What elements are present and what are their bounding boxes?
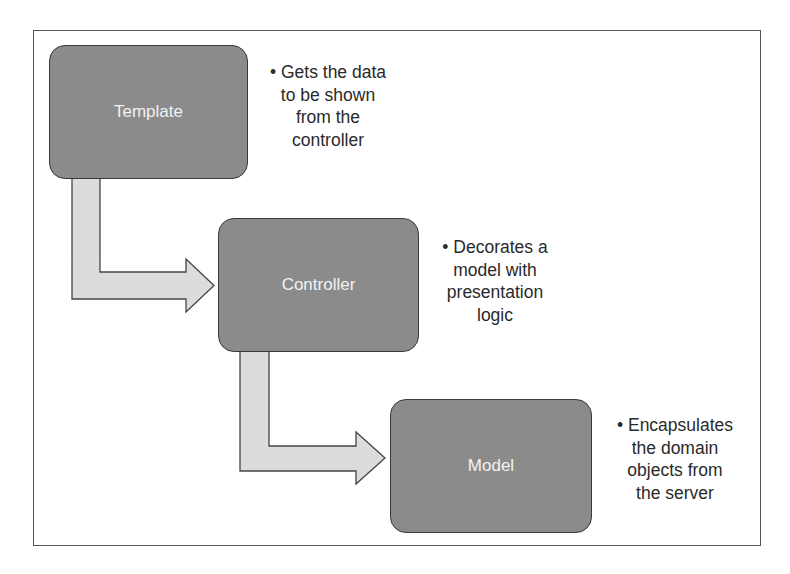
note-line: the server <box>596 482 754 505</box>
note-line: • Gets the data <box>254 61 402 84</box>
model-note: • Encapsulates the domain objects from t… <box>596 414 754 504</box>
template-note: • Gets the data to be shown from the con… <box>254 61 402 151</box>
arrow-controller-to-model <box>240 351 385 484</box>
controller-note: • Decorates a model with presentation lo… <box>424 236 566 326</box>
note-line: to be shown <box>254 84 402 107</box>
model-node: Model <box>390 399 592 533</box>
note-line: controller <box>254 129 402 152</box>
note-line: model with <box>424 259 566 282</box>
template-label: Template <box>114 102 183 122</box>
note-line: • Decorates a <box>424 236 566 259</box>
note-line: the domain <box>596 437 754 460</box>
note-line: logic <box>424 304 566 327</box>
note-line: • Encapsulates <box>596 414 754 437</box>
controller-label: Controller <box>282 275 356 295</box>
model-label: Model <box>468 456 514 476</box>
note-line: from the <box>254 106 402 129</box>
note-line: presentation <box>424 281 566 304</box>
template-node: Template <box>49 45 248 179</box>
note-line: objects from <box>596 459 754 482</box>
controller-node: Controller <box>218 218 419 352</box>
arrow-template-to-controller <box>72 178 214 312</box>
